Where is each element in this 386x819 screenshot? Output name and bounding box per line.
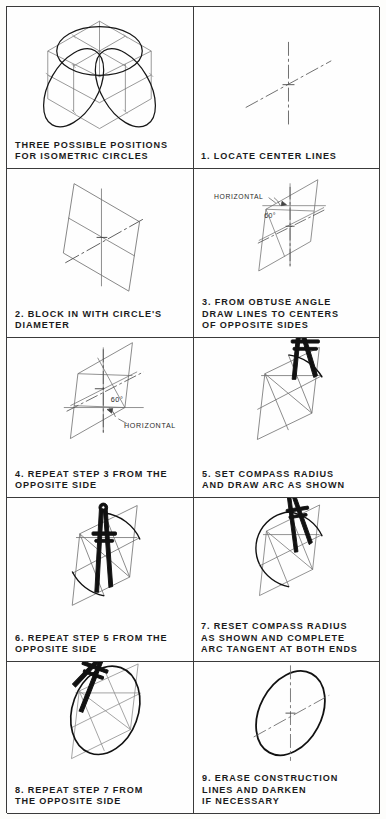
annotation-angle-60: 60°	[264, 212, 276, 219]
panel-7: 7. RESET COMPASS RADIUS AS SHOWN AND COM…	[194, 498, 380, 662]
drawing-rhombus-construction-from-top-obtuse-angle: HORIZONTAL 60°	[194, 169, 379, 294]
instruction-sheet: THREE POSSIBLE POSITIONS FOR ISOMETRIC C…	[0, 0, 386, 819]
panel-2: 2. BLOCK IN WITH CIRCLE'S DIAMETER	[7, 169, 194, 338]
panel-intro-caption: THREE POSSIBLE POSITIONS FOR ISOMETRIC C…	[7, 137, 193, 168]
panel-8: 8. REPEAT STEP 7 FROM THE OPPOSITE SIDE	[7, 662, 194, 814]
panel-9: 9. ERASE CONSTRUCTION LINES AND DARKEN I…	[194, 662, 380, 814]
panel-1: 1. LOCATE CENTER LINES	[194, 7, 380, 169]
drawing-isometric-rhombus-with-center-lines	[7, 169, 193, 306]
panel-grid: THREE POSSIBLE POSITIONS FOR ISOMETRIC C…	[6, 6, 379, 813]
annotation-horizontal: HORIZONTAL	[124, 422, 176, 430]
panel-6: 6. REPEAT STEP 5 FROM THE OPPOSITE SIDE	[7, 498, 194, 662]
panel-1-caption: 1. LOCATE CENTER LINES	[194, 148, 379, 168]
panel-5-caption: 5. SET COMPASS RADIUS AND DRAW ARC AS SH…	[194, 466, 379, 497]
annotation-horizontal: HORIZONTAL	[214, 193, 263, 200]
compass-icon	[283, 498, 316, 553]
panel-6-caption: 6. REPEAT STEP 5 FROM THE OPPOSITE SIDE	[7, 630, 193, 661]
drawing-rhombus-construction-from-bottom-obtuse-angle: HORIZONTAL 60°	[7, 338, 193, 466]
panel-3: HORIZONTAL 60° 3. FROM OBTUSE ANGLE DRAW…	[194, 169, 380, 338]
panel-8-caption: 8. REPEAT STEP 7 FROM THE OPPOSITE SIDE	[7, 782, 193, 813]
compass-icon	[291, 338, 319, 379]
drawing-center-lines-cross	[194, 7, 379, 148]
panel-intro: THREE POSSIBLE POSITIONS FOR ISOMETRIC C…	[7, 7, 194, 169]
panel-4-caption: 4. REPEAT STEP 3 FROM THE OPPOSITE SIDE	[7, 466, 193, 497]
panel-9-caption: 9. ERASE CONSTRUCTION LINES AND DARKEN I…	[194, 770, 379, 813]
drawing-isometric-cube-with-three-ellipses	[7, 7, 193, 137]
drawing-compass-small-tangent-arc	[194, 498, 379, 618]
panel-3-caption: 3. FROM OBTUSE ANGLE DRAW LINES TO CENTE…	[194, 294, 379, 337]
annotation-angle-60: 60°	[111, 395, 124, 404]
panel-2-caption: 2. BLOCK IN WITH CIRCLE'S DIAMETER	[7, 306, 193, 337]
panel-5: 5. SET COMPASS RADIUS AND DRAW ARC AS SH…	[194, 338, 380, 498]
drawing-compass-completing-ellipse	[7, 662, 193, 782]
drawing-compass-first-large-arc	[194, 338, 379, 466]
panel-7-caption: 7. RESET COMPASS RADIUS AS SHOWN AND COM…	[194, 618, 379, 661]
drawing-finished-isometric-ellipse	[194, 662, 379, 770]
panel-4: HORIZONTAL 60° 4. REPEAT STEP 3 FROM THE…	[7, 338, 194, 498]
drawing-compass-second-large-arc	[7, 498, 193, 630]
